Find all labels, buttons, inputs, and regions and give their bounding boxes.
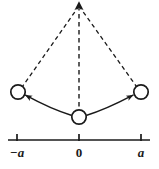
left-string [23,6,80,87]
axis-label-minus-a: −a [10,146,24,159]
left-bob [11,85,25,99]
displacement-axis [8,134,150,141]
dashed-strings-group [23,6,137,110]
left-swing-arrow [26,95,72,115]
right-string [79,6,137,87]
right-bob [134,85,148,99]
figure-canvas [0,0,159,169]
right-swing-arrow [87,95,133,115]
axis-label-zero: 0 [76,146,83,159]
center-bob [72,110,86,124]
axis-label-a: a [138,146,145,159]
pendulum-figure: −a 0 a [0,0,159,169]
